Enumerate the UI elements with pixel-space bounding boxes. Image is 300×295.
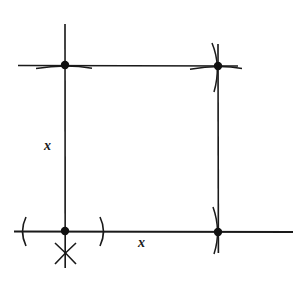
vertex-dot-top-left [61,61,69,69]
side-label-left: x [44,139,51,153]
vertex-dot-bottom-left [61,227,69,235]
geometry-figure: x x [0,0,300,295]
vertex-dot-bottom-right [214,228,222,236]
vertex-dot-top-right [214,62,222,70]
side-label-bottom: x [138,236,145,250]
bottom-horizontal-baseline [14,232,293,233]
